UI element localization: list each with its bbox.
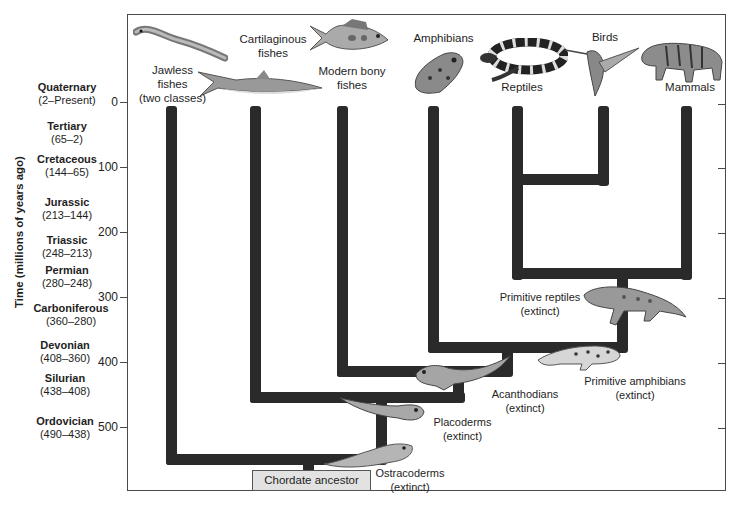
branch-bony (337, 106, 348, 377)
label-line: Jawless (130, 63, 215, 77)
shark-icon (196, 68, 326, 102)
tick-mark (718, 428, 726, 429)
label-line: Reptiles (492, 80, 552, 94)
period-range: (213–144) (12, 209, 122, 222)
label-line: Placoderms (425, 415, 500, 429)
period-jurassic: Jurassic (213–144) (12, 196, 122, 222)
tick-mark (718, 104, 726, 105)
tick-mark (718, 298, 726, 299)
placoderm-icon (338, 392, 428, 426)
label-line: Primitive reptiles (490, 290, 590, 304)
branch-birds-reptiles-join (512, 174, 609, 185)
label-line: Birds (580, 30, 630, 44)
label-line: (extinct) (485, 401, 565, 415)
period-range: (280–248) (12, 277, 122, 290)
period-carboniferous: Carboniferous (360–280) (16, 302, 126, 328)
label-line: Amphibians (406, 31, 481, 45)
label-primitive-reptiles: Primitive reptiles (extinct) (490, 290, 590, 318)
label-reptiles: Reptiles (492, 80, 552, 94)
branch-amphibians (428, 106, 439, 353)
label-placoderms: Placoderms (extinct) (425, 415, 500, 443)
label-line: (extinct) (490, 304, 590, 318)
period-name: Silurian (10, 372, 120, 385)
snake-icon (478, 38, 568, 86)
branch-mammals (681, 106, 692, 280)
tick-mark (718, 363, 726, 364)
tick-label-200: 200 (84, 225, 118, 239)
hummingbird-icon (565, 40, 641, 98)
label-line: Modern bony (312, 64, 392, 78)
branch-jawless (166, 106, 177, 465)
period-range: (360–280) (16, 315, 126, 328)
tiger-icon (636, 36, 726, 86)
label-line: fishes (312, 78, 392, 92)
label-cartilaginous-fishes: Cartilaginous fishes (228, 32, 318, 60)
period-range: (248–213) (12, 247, 122, 260)
label-line: (two classes) (130, 91, 215, 105)
frog-icon (410, 48, 470, 96)
lamprey-icon (133, 22, 228, 62)
bony-fish-icon (308, 18, 390, 58)
tick-label-0: 0 (84, 95, 118, 109)
period-range: (65–2) (12, 133, 122, 146)
label-line: (extinct) (575, 388, 695, 402)
period-name: Devonian (10, 339, 120, 352)
tick-label-400: 400 (84, 355, 118, 369)
label-line: Acanthodians (485, 387, 565, 401)
label-line: (extinct) (370, 480, 450, 494)
tick-label-300: 300 (84, 290, 118, 304)
label-birds: Birds (580, 30, 630, 44)
branch-cartilaginous (250, 106, 261, 403)
label-primitive-amphibians: Primitive amphibians (extinct) (575, 374, 695, 402)
label-acanthodians: Acanthodians (extinct) (485, 387, 565, 415)
label-ostracoderms: Ostracoderms (extinct) (370, 466, 450, 494)
label-amphibians: Amphibians (406, 31, 481, 45)
label-line: (extinct) (425, 429, 500, 443)
branch-amniote-join (512, 268, 692, 279)
chordate-ancestor-box: Chordate ancestor (252, 470, 371, 491)
tick-label-100: 100 (84, 160, 118, 174)
label-line: fishes (228, 46, 318, 60)
label-line: Mammals (655, 80, 725, 94)
period-permian: Permian (280–248) (12, 264, 122, 290)
tick-mark (718, 168, 726, 169)
tick-label-500: 500 (84, 420, 118, 434)
period-tertiary: Tertiary (65–2) (12, 120, 122, 146)
label-modern-bony-fishes: Modern bony fishes (312, 64, 392, 92)
primitive-reptile-icon (580, 283, 690, 335)
period-name: Permian (12, 264, 122, 277)
label-line: fishes (130, 77, 215, 91)
label-mammals: Mammals (655, 80, 725, 94)
label-line: Cartilaginous (228, 32, 318, 46)
label-jawless-fishes: Jawless fishes (two classes) (130, 63, 215, 105)
period-name: Quaternary (12, 81, 122, 94)
branch-reptiles (512, 106, 523, 280)
label-line: Ostracoderms (370, 466, 450, 480)
period-name: Tertiary (12, 120, 122, 133)
tick-mark (718, 233, 726, 234)
primitive-amphibian-icon (536, 340, 622, 374)
label-line: Primitive amphibians (575, 374, 695, 388)
period-name: Jurassic (12, 196, 122, 209)
period-silurian: Silurian (438–408) (10, 372, 120, 398)
period-range: (438–408) (10, 385, 120, 398)
